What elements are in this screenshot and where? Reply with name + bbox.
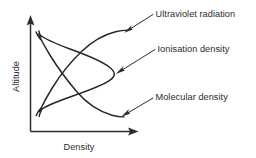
diagram-figure: Ultraviolet radiation Ionisation density…: [0, 0, 256, 158]
y-axis-label: Altitude: [11, 61, 21, 92]
leader-arrow-icon-molecular: [121, 109, 130, 117]
leader-line-molecular: [126, 98, 153, 114]
callout-label-molecular-density: Molecular density: [156, 92, 229, 102]
diagram-canvas: Ultraviolet radiation Ionisation density…: [0, 0, 256, 158]
axis-labels-group: Altitude Density: [11, 61, 95, 152]
callout-label-ultraviolet-radiation: Ultraviolet radiation: [156, 9, 236, 19]
callout-leaders-group: [116, 15, 155, 117]
leader-arrow-icon-ultraviolet: [124, 25, 133, 32]
curve-ionisation-density: [39, 34, 115, 111]
leader-arrow-icon-ionisation: [116, 66, 125, 74]
callout-label-ionisation-density: Ionisation density: [158, 44, 230, 54]
callout-labels-group: Ultraviolet radiation Ionisation density…: [156, 9, 236, 102]
leader-line-ultraviolet: [129, 15, 154, 31]
leader-line-ionisation: [121, 50, 156, 72]
curves-group: [36, 30, 128, 117]
x-axis-label: Density: [64, 142, 95, 152]
